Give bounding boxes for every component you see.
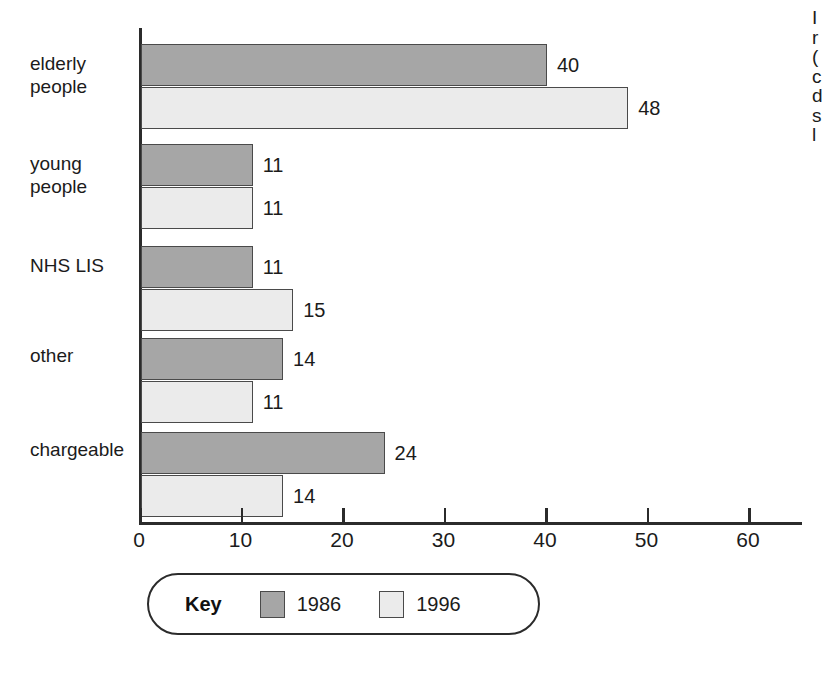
bar-value-label: 40	[557, 55, 579, 75]
x-tick	[647, 508, 650, 523]
category-label-other: other	[30, 344, 135, 367]
legend-box: Key 1986 1996	[147, 573, 540, 635]
category-label-elderly-people: elderly people	[30, 52, 135, 98]
x-tick	[139, 508, 142, 523]
category-label-nhs-lis: NHS LIS	[30, 254, 135, 277]
x-tick	[241, 508, 244, 523]
bar-1996-young-people	[141, 187, 253, 229]
x-tick-label: 50	[635, 528, 658, 552]
x-tick-label: 40	[533, 528, 556, 552]
x-tick	[444, 508, 447, 523]
bar-value-label: 48	[638, 98, 660, 118]
bar-1996-other	[141, 381, 253, 423]
legend-swatch-1996	[379, 591, 404, 618]
x-tick-label: 30	[432, 528, 455, 552]
bar-value-label: 11	[263, 198, 284, 218]
bar-value-label: 14	[293, 486, 315, 506]
x-axis-line	[139, 522, 802, 525]
plot-area: 40481111111514112414	[139, 28, 799, 508]
bar-1986-elderly-people	[141, 44, 547, 86]
x-tick-label: 10	[229, 528, 252, 552]
category-label-chargeable: chargeable	[30, 438, 135, 461]
legend-label-1996: 1996	[416, 593, 461, 616]
x-tick-label: 0	[133, 528, 145, 552]
legend-title: Key	[185, 593, 222, 616]
bar-1996-elderly-people	[141, 87, 628, 129]
bar-1986-young-people	[141, 144, 253, 186]
x-axis: 0102030405060	[139, 508, 802, 554]
bar-1986-nhs-lis	[141, 246, 253, 288]
x-tick	[748, 508, 751, 523]
bar-value-label: 11	[263, 155, 284, 175]
legend-label-1986: 1986	[297, 593, 342, 616]
clipped-margin-text: I r ( c d s l	[812, 8, 825, 145]
bar-value-label: 14	[293, 349, 315, 369]
bar-value-label: 11	[263, 257, 284, 277]
bar-1996-nhs-lis	[141, 289, 293, 331]
bar-value-label: 15	[303, 300, 325, 320]
bar-value-label: 24	[395, 443, 417, 463]
category-label-young-people: young people	[30, 152, 135, 198]
bar-chart: elderly people young people NHS LIS othe…	[0, 0, 825, 675]
legend-swatch-1986	[260, 591, 285, 618]
bar-1986-chargeable	[141, 432, 385, 474]
x-tick-label: 20	[330, 528, 353, 552]
x-tick-label: 60	[736, 528, 759, 552]
x-tick	[545, 508, 548, 523]
bar-1986-other	[141, 338, 283, 380]
bar-value-label: 11	[263, 392, 284, 412]
x-tick	[342, 508, 345, 523]
